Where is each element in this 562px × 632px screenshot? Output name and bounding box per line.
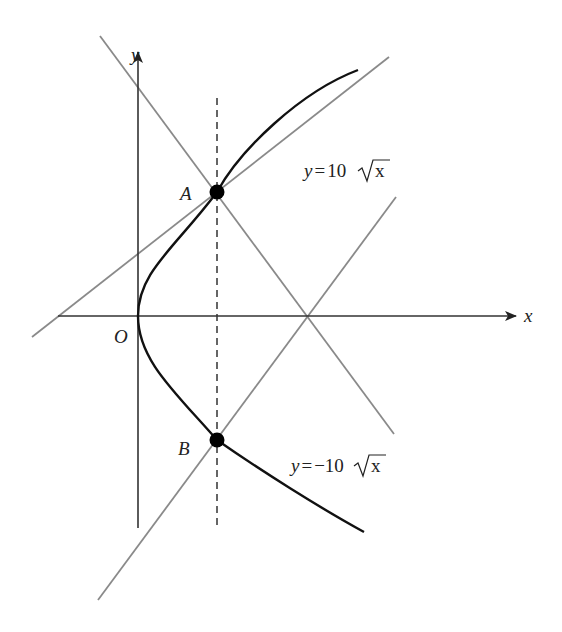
point-a: [210, 185, 225, 200]
origin-label: O: [114, 326, 128, 347]
y-axis-label: y: [129, 44, 140, 65]
parabola-diagram: y x O A B y=10 x y=−10 x: [0, 0, 562, 632]
normal-line-at-a: [100, 36, 394, 434]
x-axis-label: x: [523, 305, 533, 326]
diagram-canvas: y x O A B y=10 x y=−10 x: [0, 0, 562, 632]
sqrt-icon: [354, 455, 386, 476]
svg-text:y=10: y=10: [302, 160, 346, 181]
tangent-line-at-a: [32, 57, 389, 337]
svg-text:x: x: [371, 455, 381, 476]
lower-equation-label: y=−10 x: [289, 455, 386, 476]
upper-equation-label: y=10 x: [302, 160, 390, 181]
normal-line-at-b: [98, 197, 396, 600]
svg-text:x: x: [375, 160, 385, 181]
point-b: [210, 433, 225, 448]
point-a-label: A: [178, 183, 192, 204]
point-b-label: B: [178, 438, 190, 459]
svg-text:y=−10: y=−10: [289, 455, 344, 476]
sqrt-icon: [358, 160, 390, 181]
